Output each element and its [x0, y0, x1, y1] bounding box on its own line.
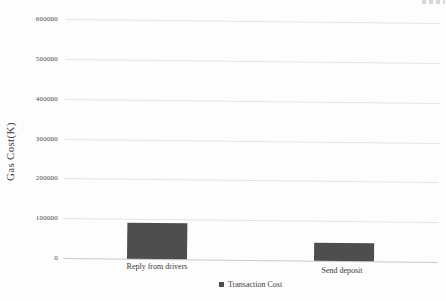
gridline [65, 59, 440, 64]
legend-label: Transaction Cost [228, 280, 282, 289]
gridline [65, 99, 440, 104]
legend: Transaction Cost [219, 280, 282, 289]
gridlines [66, 19, 441, 23]
gridline [64, 178, 439, 183]
bar-chart-figure: Gas Cost(K) 0100000200000300000400000500… [0, 0, 446, 301]
y-tick-label: 600000 [0, 15, 58, 23]
legend-marker-square-icon [219, 282, 224, 287]
cropped-text-artifact [422, 0, 445, 4]
gridline [63, 218, 438, 223]
y-axis-tick-labels: 0100000200000300000400000500000600000 [0, 0, 58, 301]
x-axis-line [63, 258, 438, 263]
category-label-send-deposit: Send deposit [321, 266, 362, 275]
y-tick-label: 200000 [0, 174, 58, 182]
plot-area [63, 19, 441, 262]
gridline [64, 139, 439, 144]
gridline [66, 19, 441, 24]
y-tick-label: 100000 [0, 214, 58, 222]
y-tick-label: 500000 [0, 55, 58, 63]
y-tick-label: 300000 [0, 135, 58, 143]
y-tick-label: 0 [0, 254, 58, 262]
bar-send-deposit [314, 243, 374, 262]
bar-reply-from-drivers [127, 223, 187, 259]
y-tick-label: 400000 [0, 95, 58, 103]
category-label-reply-from-drivers: Reply from drivers [127, 262, 188, 271]
